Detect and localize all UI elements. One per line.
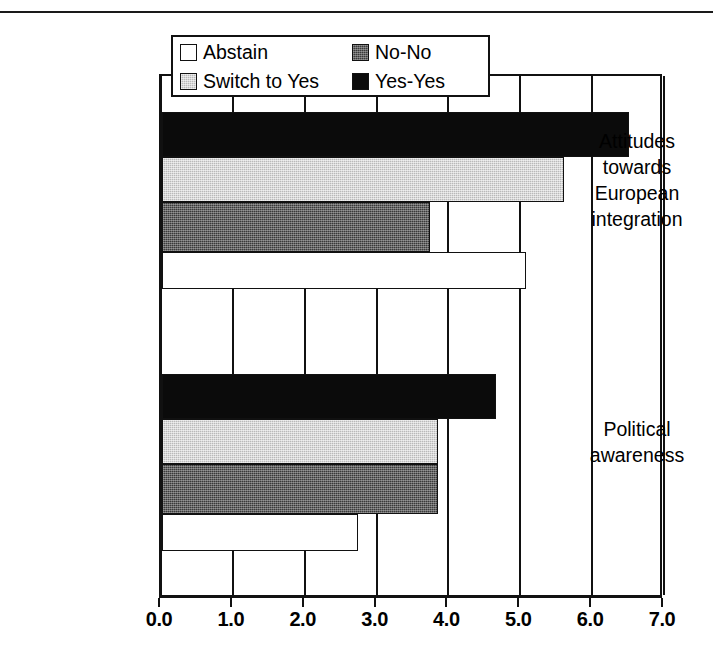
bar-abstain-group-2 <box>162 514 358 551</box>
legend-item-switch-to-yes[interactable]: Switch to Yes <box>180 67 352 96</box>
legend-item-abstain[interactable]: Abstain <box>180 38 352 67</box>
x-tick-label-4.0: 4.0 <box>411 608 481 631</box>
legend-item-yes-yes[interactable]: Yes-Yes <box>352 67 499 96</box>
x-tick-4.0 <box>445 598 447 607</box>
legend-item-label: No-No <box>375 42 431 62</box>
x-tick-0.0 <box>158 598 160 607</box>
x-tick-5.0 <box>517 598 519 607</box>
legend-swatch-icon <box>352 73 369 90</box>
category-label-line: awareness <box>561 442 713 468</box>
x-tick-label-3.0: 3.0 <box>340 608 410 631</box>
category-label-line: towards <box>561 154 713 180</box>
x-tick-label-5.0: 5.0 <box>483 608 553 631</box>
legend-item-label: Abstain <box>203 42 268 62</box>
legend-item-label: Yes-Yes <box>375 71 445 91</box>
bar-no-no-group-1 <box>162 202 430 252</box>
category-label-line: European <box>561 180 713 206</box>
bar-switch-to-yes-group-2 <box>162 419 438 464</box>
category-label-line: integration <box>561 206 713 232</box>
bar-abstain-group-1 <box>162 252 526 289</box>
x-tick-6.0 <box>589 598 591 607</box>
category-label-line: Political <box>561 416 713 442</box>
bar-yes-yes-group-2 <box>162 374 496 419</box>
category-label-2: Politicalawareness <box>561 416 713 468</box>
x-tick-3.0 <box>374 598 376 607</box>
legend-swatch-icon <box>352 44 369 61</box>
x-tick-2.0 <box>302 598 304 607</box>
chart-legend: AbstainNo-NoSwitch to YesYes-Yes <box>171 35 490 97</box>
bar-switch-to-yes-group-1 <box>162 157 564 202</box>
x-tick-label-6.0: 6.0 <box>555 608 625 631</box>
x-tick-label-7.0: 7.0 <box>627 608 697 631</box>
legend-item-no-no[interactable]: No-No <box>352 38 499 67</box>
x-tick-label-1.0: 1.0 <box>196 608 266 631</box>
bar-chart-figure: 0.01.02.03.04.05.06.07.0 Attitudestoward… <box>0 0 713 660</box>
category-label-line: Attitudes <box>561 128 713 154</box>
x-tick-label-2.0: 2.0 <box>268 608 338 631</box>
legend-swatch-icon <box>180 44 197 61</box>
legend-item-label: Switch to Yes <box>203 71 319 91</box>
bar-yes-yes-group-1 <box>162 112 629 157</box>
bar-no-no-group-2 <box>162 464 438 514</box>
legend-swatch-icon <box>180 73 197 90</box>
x-tick-label-0.0: 0.0 <box>124 608 194 631</box>
x-tick-7.0 <box>661 598 663 607</box>
category-label-1: AttitudestowardsEuropeanintegration <box>561 128 713 232</box>
x-tick-1.0 <box>230 598 232 607</box>
